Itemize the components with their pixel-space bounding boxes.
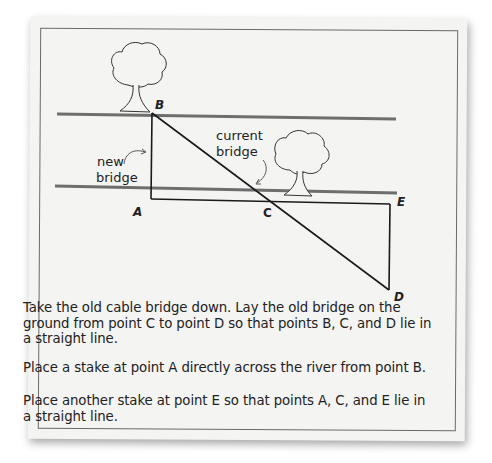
label-new-bridge-1: new [97, 154, 124, 169]
label-new-bridge-2: bridge [96, 170, 138, 185]
river-bank-bottom [55, 186, 397, 193]
point-label-b: B [155, 98, 164, 112]
instruction-2: Place a stake at point A directly across… [23, 360, 433, 376]
instruction-text-3: Place another stake at point E so that p… [23, 393, 433, 424]
arrow-new-bridge-icon [124, 151, 145, 164]
point-label-e: E [397, 195, 406, 209]
tree-icon [275, 131, 329, 196]
instruction-text-2: Place a stake at point A directly across… [23, 360, 433, 376]
point-label-c: C [263, 206, 272, 220]
point-label-a: A [132, 205, 142, 219]
label-current-bridge-2: bridge [216, 144, 258, 159]
segment-bd [152, 113, 389, 290]
river-bank-top [57, 114, 396, 119]
segment-ab [151, 113, 152, 199]
label-current-bridge-1: current [216, 128, 263, 143]
instruction-3: Place another stake at point E so that p… [23, 393, 433, 424]
instruction-1: Take the old cable bridge down. Lay the … [23, 300, 433, 347]
segment-ed [389, 204, 390, 290]
instruction-text-1: Take the old cable bridge down. Lay the … [23, 300, 433, 347]
